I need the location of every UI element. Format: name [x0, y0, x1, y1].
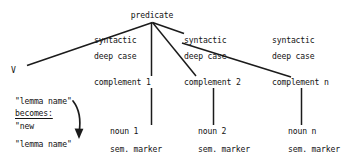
diagram-canvas: predicate V syntactic deep case compleme…	[0, 0, 355, 161]
node-complement-n: complement n	[272, 78, 329, 87]
node-predicate: predicate	[131, 11, 174, 20]
becomes-arrow-icon	[73, 101, 83, 139]
annotation-lemma-name-result: "lemma name"	[15, 139, 72, 151]
label-deep-case-2: deep case	[184, 52, 227, 61]
annotation-becomes: becomes:	[15, 108, 53, 120]
edge-root-branch-right	[153, 23, 185, 34]
node-complement-2: complement 2	[184, 78, 241, 87]
label-syntactic-1: syntactic	[94, 36, 137, 45]
edge-root-to-complement-2	[153, 23, 197, 77]
label-deep-case-1: deep case	[94, 52, 137, 61]
node-v: V	[11, 66, 16, 75]
node-noun-n: noun n	[288, 127, 316, 136]
node-noun-1: noun 1	[110, 127, 138, 136]
node-noun-2: noun 2	[198, 127, 226, 136]
label-syntactic-n: syntactic	[272, 36, 315, 45]
label-sem-marker-1: sem. marker	[110, 145, 162, 154]
label-sem-marker-2: sem. marker	[198, 145, 250, 154]
label-deep-case-n: deep case	[272, 52, 315, 61]
label-syntactic-2: syntactic	[184, 36, 227, 45]
annotation-new: "new	[15, 121, 34, 133]
node-complement-1: complement 1	[94, 78, 151, 87]
annotation-lemma-name-original: "lemma name"	[15, 96, 72, 108]
label-sem-marker-n: sem. marker	[288, 145, 340, 154]
